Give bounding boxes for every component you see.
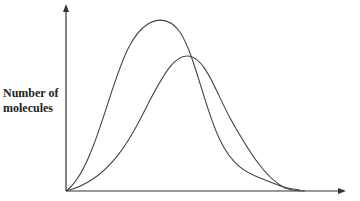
- y-axis-arrow-icon: [63, 4, 69, 12]
- axes: [66, 10, 340, 191]
- curve-a: [66, 20, 300, 191]
- x-axis-arrow-icon: [338, 188, 346, 194]
- curve-b: [66, 56, 305, 191]
- chart-plot: [0, 0, 360, 201]
